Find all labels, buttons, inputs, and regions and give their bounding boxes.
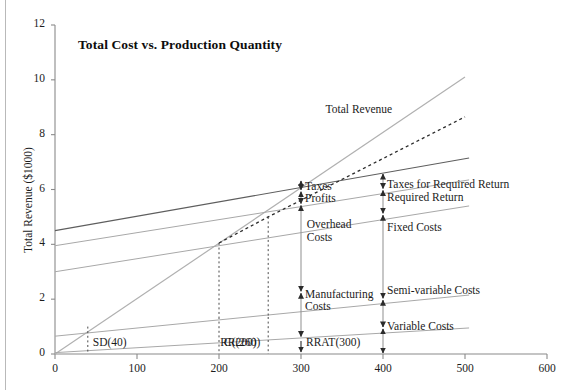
x-tick-label: 100 xyxy=(117,362,157,374)
y-tick-label: 8 xyxy=(23,127,45,139)
chart-annotation-label: Fixed Costs xyxy=(387,221,442,233)
x-tick-label: 300 xyxy=(281,362,321,374)
series-line xyxy=(55,77,465,354)
x-tick-label: 0 xyxy=(35,362,75,374)
chart-container: Total Cost vs. Production Quantity Total… xyxy=(0,0,565,390)
y-tick-label: 12 xyxy=(23,17,45,29)
chart-annotation-label: RRAT(300) xyxy=(306,336,360,348)
chart-annotation-label: OverheadCosts xyxy=(307,218,352,244)
x-tick-label: 200 xyxy=(199,362,239,374)
series-line xyxy=(55,206,469,272)
x-tick-label: 600 xyxy=(527,362,565,374)
x-tick-label: 500 xyxy=(445,362,485,374)
plot-area xyxy=(0,0,565,390)
chart-annotation-label: Taxes for Required Return xyxy=(387,178,509,190)
y-tick-label: 0 xyxy=(23,346,45,358)
y-tick-label: 4 xyxy=(23,236,45,248)
y-tick-label: 2 xyxy=(23,291,45,303)
chart-annotation-label: Required Return xyxy=(387,191,463,203)
chart-annotation-label: Variable Costs xyxy=(387,320,454,332)
y-tick-label: 6 xyxy=(23,182,45,194)
chart-annotation-label: SD(40) xyxy=(93,336,127,348)
chart-annotation-label: Profits xyxy=(305,192,336,204)
chart-annotation-label: Total Revenue xyxy=(326,103,393,115)
chart-annotation-label: Semi-variable Costs xyxy=(387,284,480,296)
x-tick-label: 400 xyxy=(363,362,403,374)
chart-annotation-label: ManufacturingCosts xyxy=(305,288,373,314)
y-tick-label: 10 xyxy=(23,72,45,84)
chart-annotation-label: RR(260) xyxy=(220,336,260,348)
chart-annotation-label: Taxes xyxy=(305,180,332,192)
